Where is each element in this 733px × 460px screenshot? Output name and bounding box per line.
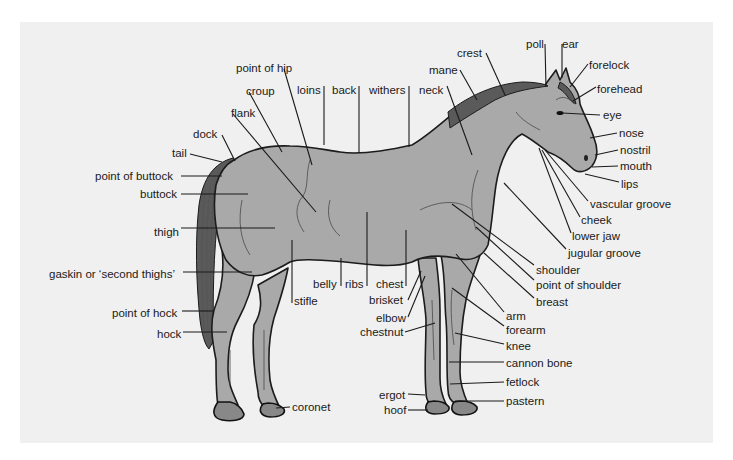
fore-hoof-far xyxy=(426,401,449,414)
label-forearm: forearm xyxy=(506,324,546,336)
label-withers: withers xyxy=(368,84,406,96)
label-dock: dock xyxy=(193,128,218,140)
leader-line-tail xyxy=(190,154,222,162)
label-nose: nose xyxy=(619,127,644,139)
label-gaskin: gaskin or ‘second thighs’ xyxy=(49,268,175,280)
leader-line-croup xyxy=(249,92,282,152)
label-cannon-bone: cannon bone xyxy=(506,357,573,369)
label-tail: tail xyxy=(172,147,187,159)
label-loins: loins xyxy=(297,84,321,96)
leader-line-poll xyxy=(545,44,546,87)
label-chest: chest xyxy=(376,278,404,290)
label-ribs: ribs xyxy=(345,278,364,290)
hind-hoof-near xyxy=(214,402,244,421)
far-fore-leg xyxy=(418,258,446,404)
label-elbow: elbow xyxy=(376,312,407,324)
leader-line-nose xyxy=(590,133,617,138)
label-ear: ear xyxy=(562,38,579,50)
far-hind-leg xyxy=(253,268,288,408)
label-mouth: mouth xyxy=(620,160,652,172)
label-nostril: nostril xyxy=(620,144,651,156)
label-jugular-groove: jugular groove xyxy=(567,247,641,259)
label-brisket: brisket xyxy=(369,294,404,306)
label-lips: lips xyxy=(621,178,639,190)
horse-anatomy-diagram: point of hipcroupflankdocktailpoint of b… xyxy=(0,0,733,460)
leader-line-forelock xyxy=(570,64,588,87)
leader-line-jugular-groove xyxy=(504,183,566,249)
label-coronet: coronet xyxy=(292,401,331,413)
label-buttock: buttock xyxy=(140,188,177,200)
label-knee: knee xyxy=(506,340,531,352)
label-fetlock: fetlock xyxy=(506,376,539,388)
label-chestnut: chestnut xyxy=(360,326,404,338)
leader-line-lips xyxy=(585,174,619,182)
leader-line-mouth xyxy=(592,166,618,167)
label-forelock: forelock xyxy=(589,59,630,71)
fore-hoof-near xyxy=(452,401,477,415)
label-shoulder: shoulder xyxy=(536,264,580,276)
label-crest: crest xyxy=(457,47,483,59)
leader-line-ergot xyxy=(408,394,425,395)
label-ergot: ergot xyxy=(379,389,406,401)
leader-line-dock xyxy=(222,135,235,161)
hind-hoof-far xyxy=(260,403,284,417)
label-point-of-hip: point of hip xyxy=(236,62,292,74)
nostril-shape xyxy=(584,155,588,161)
label-eye: eye xyxy=(603,109,622,121)
label-point-of-buttock: point of buttock xyxy=(95,170,173,182)
label-arm: arm xyxy=(506,310,526,322)
label-point-of-hock: point of hock xyxy=(112,307,177,319)
label-point-of-shoulder: point of shoulder xyxy=(536,279,621,291)
label-stifle: stifle xyxy=(294,295,318,307)
label-pastern: pastern xyxy=(506,395,544,407)
label-neck: neck xyxy=(419,84,444,96)
leader-line-brisket xyxy=(408,271,421,300)
label-thigh: thigh xyxy=(154,226,179,238)
label-flank: flank xyxy=(231,107,256,119)
label-vascular-groove: vascular groove xyxy=(590,198,671,210)
label-forehead: forehead xyxy=(597,83,642,95)
leader-line-knee xyxy=(455,333,504,344)
label-breast: breast xyxy=(536,296,569,308)
label-lower-jaw: lower jaw xyxy=(572,230,621,242)
label-poll: poll xyxy=(526,38,544,50)
label-mane: mane xyxy=(429,64,458,76)
label-back: back xyxy=(332,84,357,96)
label-belly: belly xyxy=(313,278,337,290)
leader-line-mane xyxy=(460,70,477,100)
near-fore-leg xyxy=(440,250,480,404)
leader-line-nostril xyxy=(595,150,618,155)
label-cheek: cheek xyxy=(581,214,612,226)
label-hock: hock xyxy=(157,328,182,340)
label-croup: croup xyxy=(246,85,275,97)
label-hoof: hoof xyxy=(384,404,407,416)
